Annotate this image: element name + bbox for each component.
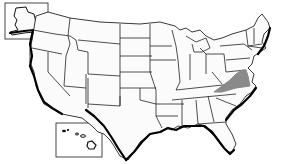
us-map: United States map Virginia (0, 0, 282, 164)
us-map-svg (0, 0, 282, 164)
